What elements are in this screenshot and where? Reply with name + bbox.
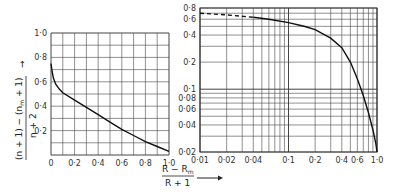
x-tick-label: 0·1 bbox=[282, 156, 295, 165]
right-chart: 0·010·020·040·10·20·40·61·00·020·040·060… bbox=[178, 4, 383, 165]
x-tick-label: 0·2 bbox=[309, 156, 322, 165]
chart: 00·20·40·60·81·00·20·40·60·81·0 0·010·02… bbox=[0, 0, 399, 195]
x-tick-label: 0·6 bbox=[115, 159, 128, 168]
x-tick-label: 0·2 bbox=[68, 159, 81, 168]
y-tick-label: 0·6 bbox=[183, 15, 196, 24]
x-tick-label: 0·4 bbox=[335, 156, 348, 165]
y-tick-label: 0·02 bbox=[178, 148, 196, 157]
x-tick-label: 0·02 bbox=[218, 156, 236, 165]
x-label-arrowhead-icon bbox=[218, 176, 223, 181]
x-label-numerator: R − Rm bbox=[162, 164, 194, 175]
x-tick-label: 0·4 bbox=[92, 159, 105, 168]
y-tick-label: 0·4 bbox=[34, 102, 47, 111]
y-label-denominator: n + 2 bbox=[28, 113, 38, 138]
y-tick-label: 0·6 bbox=[34, 78, 47, 87]
y-tick-label: 0·4 bbox=[183, 31, 196, 40]
y-tick-label: 0·2 bbox=[183, 58, 196, 67]
y-label-arrow-icon: → bbox=[17, 60, 27, 68]
x-tick-label: 0·6 bbox=[351, 156, 364, 165]
x-tick-label: 0 bbox=[48, 159, 53, 168]
left-chart: 00·20·40·60·81·00·20·40·60·81·0 bbox=[34, 29, 175, 168]
x-tick-label: 0·8 bbox=[139, 159, 152, 168]
right-x-axis-label: R − Rm R + 1 bbox=[162, 164, 223, 188]
y-label-numerator: (n + 1) − (nm + 1) bbox=[14, 77, 25, 160]
y-tick-label: 0·1 bbox=[183, 85, 196, 94]
y-tick-label: 1·0 bbox=[34, 29, 47, 38]
x-tick-label: 0·04 bbox=[244, 156, 262, 165]
x-label-denominator: R + 1 bbox=[165, 178, 190, 188]
y-tick-label: 0·04 bbox=[178, 121, 196, 130]
y-tick-label: 0·8 bbox=[34, 53, 47, 62]
y-tick-label: 0·8 bbox=[183, 4, 196, 13]
x-tick-label: 0·01 bbox=[191, 156, 209, 165]
x-tick-label: 1·0 bbox=[371, 156, 384, 165]
y-tick-label: 0·08 bbox=[178, 94, 196, 103]
y-tick-label: 0·06 bbox=[178, 105, 196, 114]
